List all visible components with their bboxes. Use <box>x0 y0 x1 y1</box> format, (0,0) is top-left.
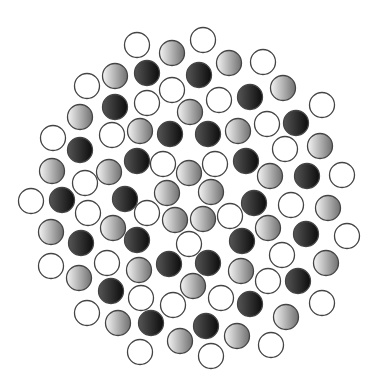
black-circle <box>294 222 319 247</box>
black-circle <box>135 61 160 86</box>
black-circle <box>157 252 182 277</box>
black-circle <box>194 314 219 339</box>
white-circle <box>129 286 154 311</box>
black-circle <box>196 251 221 276</box>
gray-circle <box>229 259 254 284</box>
white-circle <box>251 50 276 75</box>
white-circle <box>335 224 360 249</box>
black-circle <box>284 111 309 136</box>
gray-circle <box>256 216 281 241</box>
gray-circle <box>67 266 92 291</box>
gray-circle <box>155 181 180 206</box>
gray-circle <box>178 100 203 125</box>
white-circle <box>95 251 120 276</box>
white-circle <box>151 152 176 177</box>
gray-circle <box>128 119 153 144</box>
black-circle <box>158 122 183 147</box>
white-circle <box>135 91 160 116</box>
black-circle <box>103 95 128 120</box>
white-circle <box>76 201 101 226</box>
gray-circle <box>199 180 224 205</box>
gray-circle <box>191 207 216 232</box>
gray-circle <box>181 274 206 299</box>
gray-circle <box>68 105 93 130</box>
white-circle <box>310 93 335 118</box>
white-circle <box>73 171 98 196</box>
white-circle <box>273 137 298 162</box>
gray-circle <box>316 196 341 221</box>
white-circle <box>255 112 280 137</box>
white-circle <box>19 189 44 214</box>
white-circle <box>330 163 355 188</box>
white-circle <box>209 286 234 311</box>
gray-circle <box>101 216 126 241</box>
white-circle <box>199 344 224 369</box>
gray-circle <box>314 251 339 276</box>
black-circle <box>238 292 263 317</box>
white-circle <box>125 33 150 58</box>
black-circle <box>230 229 255 254</box>
gray-circle <box>163 208 188 233</box>
gray-circle <box>308 134 333 159</box>
gray-circle <box>217 51 242 76</box>
black-circle <box>196 122 221 147</box>
white-circle <box>177 232 202 257</box>
gray-circle <box>39 220 64 245</box>
white-circle <box>75 74 100 99</box>
white-circle <box>259 333 284 358</box>
black-circle <box>125 228 150 253</box>
black-circle <box>295 164 320 189</box>
gray-circle <box>258 164 283 189</box>
black-circle <box>69 231 94 256</box>
gray-circle <box>160 41 185 66</box>
white-circle <box>160 78 185 103</box>
white-circle <box>203 152 228 177</box>
circle-pattern-figure <box>0 0 381 389</box>
white-circle <box>218 204 243 229</box>
black-circle <box>113 187 138 212</box>
white-circle <box>39 254 64 279</box>
white-circle <box>310 291 335 316</box>
white-circle <box>128 340 153 365</box>
white-circle <box>161 293 186 318</box>
black-circle <box>234 149 259 174</box>
white-circle <box>279 193 304 218</box>
white-circle <box>41 126 66 151</box>
black-circle <box>68 138 93 163</box>
black-circle <box>50 188 75 213</box>
white-circle <box>135 201 160 226</box>
white-circle <box>100 123 125 148</box>
white-circle <box>207 88 232 113</box>
black-circle <box>139 311 164 336</box>
gray-circle <box>271 76 296 101</box>
white-circle <box>191 28 216 53</box>
white-circle <box>270 243 295 268</box>
black-circle <box>286 269 311 294</box>
black-circle <box>242 191 267 216</box>
gray-circle <box>40 159 65 184</box>
gray-circle <box>168 329 193 354</box>
gray-circle <box>127 258 152 283</box>
black-circle <box>99 279 124 304</box>
gray-circle <box>103 64 128 89</box>
black-circle <box>187 63 212 88</box>
gray-circle <box>226 119 251 144</box>
gray-circle <box>225 324 250 349</box>
white-circle <box>75 301 100 326</box>
gray-circle <box>97 160 122 185</box>
black-circle <box>238 85 263 110</box>
black-circle <box>125 149 150 174</box>
gray-circle <box>106 311 131 336</box>
gray-circle <box>177 161 202 186</box>
white-circle <box>256 269 281 294</box>
gray-circle <box>274 305 299 330</box>
